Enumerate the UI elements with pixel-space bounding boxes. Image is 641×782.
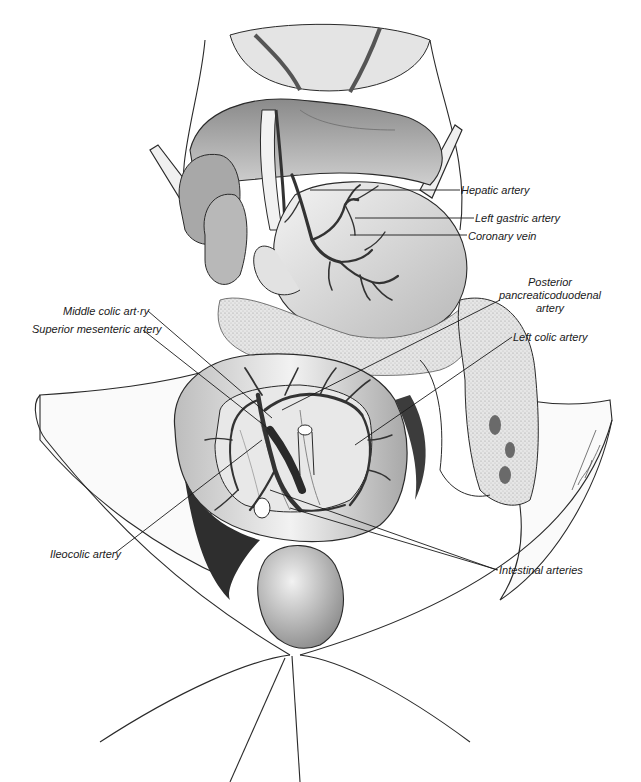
label-coronary-vein: Coronary vein (468, 230, 536, 243)
label-left-colic-artery: Left colic artery (513, 331, 588, 344)
upper-region (230, 24, 430, 92)
label-middle-colic-artery: Middle colic art·ry (63, 305, 149, 318)
label-ileocolic-artery: Ileocolic artery (50, 548, 121, 561)
illustration-artwork (0, 0, 641, 782)
label-line-3: artery (494, 302, 606, 315)
label-superior-mesenteric-artery: Superior mesenteric artery (32, 323, 162, 336)
label-intestinal-arteries: Intestinal arteries (499, 564, 583, 577)
label-line-2: pancreaticoduodenal (494, 289, 606, 302)
label-hepatic-artery: Hepatic artery (461, 184, 529, 197)
label-line-1: Posterior (494, 276, 606, 289)
label-left-gastric-artery: Left gastric artery (475, 212, 560, 225)
label-posterior-pancreaticoduodenal-artery: Posterior pancreaticoduodenal artery (494, 276, 606, 315)
bladder (258, 546, 344, 649)
anatomical-illustration: Hepatic artery Left gastric artery Coron… (0, 0, 641, 782)
